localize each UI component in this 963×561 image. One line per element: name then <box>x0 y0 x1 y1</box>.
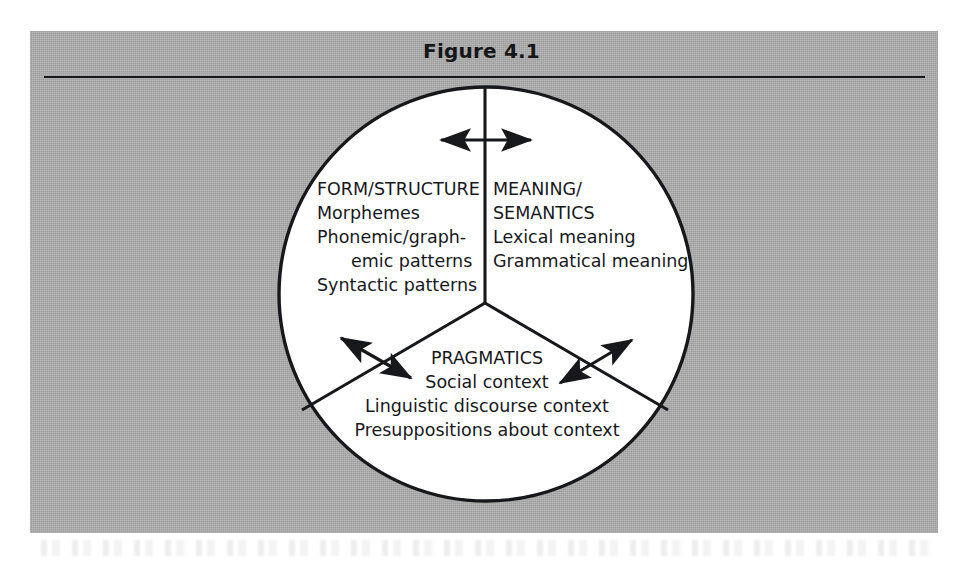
form-structure-line-3: emic patterns <box>317 249 480 273</box>
meaning-semantics-line-1: Lexical meaning <box>493 225 688 249</box>
meaning-semantics-heading-line-1: MEANING/ <box>493 177 688 201</box>
pragmatics-line-2: Linguistic discourse context <box>287 394 687 418</box>
segment-label-meaning-semantics: MEANING/ SEMANTICS Lexical meaning Gramm… <box>493 177 688 273</box>
pragmatics-line-1: Social context <box>287 370 687 394</box>
form-structure-line-1: Morphemes <box>317 201 480 225</box>
venn-circle-diagram <box>0 0 963 561</box>
meaning-semantics-line-2: Grammatical meaning <box>493 249 688 273</box>
segment-label-form-structure: FORM/STRUCTURE Morphemes Phonemic/graph-… <box>317 177 480 297</box>
meaning-semantics-heading-line-2: SEMANTICS <box>493 201 688 225</box>
pragmatics-heading: PRAGMATICS <box>287 346 687 370</box>
segment-label-pragmatics: PRAGMATICS Social context Linguistic dis… <box>287 346 687 442</box>
pragmatics-line-3: Presuppositions about context <box>287 418 687 442</box>
form-structure-heading: FORM/STRUCTURE <box>317 177 480 201</box>
form-structure-line-4: Syntactic patterns <box>317 273 480 297</box>
figure-container: Figure 4.1 FORM/STRUCTURE Morphemes Phon… <box>0 0 963 561</box>
form-structure-line-2: Phonemic/graph- <box>317 225 480 249</box>
